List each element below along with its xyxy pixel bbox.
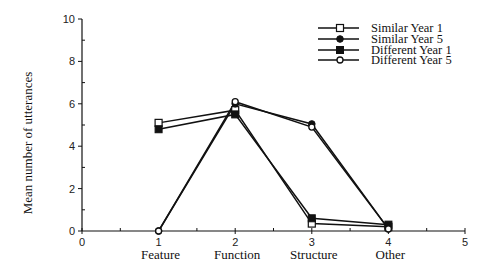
open-diamond-marker <box>385 226 391 232</box>
y-tick-label: 0 <box>69 225 75 237</box>
series-similar-year-1 <box>159 110 389 227</box>
open-diamond-marker <box>309 124 315 130</box>
y-tick-label: 10 <box>63 13 75 25</box>
filled-diamond-marker <box>337 36 344 43</box>
legend: Similar Year 1Similar Year 5Different Ye… <box>318 21 452 67</box>
open-square-marker <box>337 25 344 32</box>
open-diamond-marker <box>337 57 343 63</box>
x-tick-label: 0 <box>79 236 85 248</box>
series-markers <box>155 111 392 228</box>
category-label: Function <box>214 247 261 262</box>
category-label: Structure <box>290 247 338 262</box>
open-diamond-marker <box>232 99 238 105</box>
category-label: Other <box>376 247 406 262</box>
open-diamond-marker <box>156 228 162 234</box>
y-axis-title: Mean number of utterances <box>20 72 35 215</box>
line-chart: Mean number of utterances 0246810012345F… <box>0 0 486 275</box>
legend-label: Different Year 5 <box>371 53 452 67</box>
filled-square-marker <box>337 47 344 54</box>
series-group <box>155 99 392 235</box>
series-line <box>159 114 389 224</box>
filled-square-marker <box>308 215 315 222</box>
y-tick-label: 6 <box>69 98 75 110</box>
x-tick-label: 5 <box>462 236 468 248</box>
filled-square-marker <box>155 126 162 133</box>
legend-item: Different Year 5 <box>318 53 452 67</box>
y-tick-label: 8 <box>69 55 75 67</box>
filled-square-marker <box>232 111 239 118</box>
series-different-year-1 <box>159 114 389 224</box>
series-line <box>159 110 389 227</box>
category-label: Feature <box>141 247 180 262</box>
y-tick-label: 2 <box>69 183 75 195</box>
series-markers <box>155 107 392 231</box>
y-tick-label: 4 <box>69 140 75 152</box>
